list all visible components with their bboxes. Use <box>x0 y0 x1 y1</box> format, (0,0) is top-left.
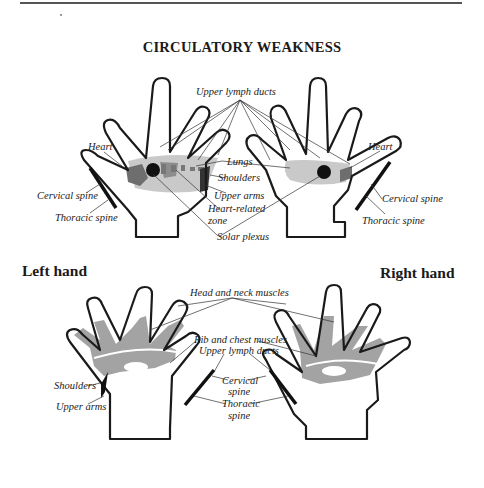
bottom-left-hand <box>67 287 214 439</box>
bottom-left-shoulder-bar <box>101 372 108 398</box>
top-left-band-2 <box>171 165 176 172</box>
label-thoracic-spine-right: Thoracic spine <box>362 215 425 226</box>
label-upper-lymph-ducts-top: Upper lymph ducts <box>196 86 276 97</box>
label-rib-chest-muscles: Rib and chest muscles <box>194 334 287 345</box>
label-right-hand: Right hand <box>380 264 455 282</box>
top-right-hand-outline <box>246 78 401 237</box>
label-upper-arms-top: Upper arms <box>214 190 264 201</box>
label-solar-plexus: Solar plexus <box>217 231 269 242</box>
label-cervical-spine-right: Cervical spine <box>382 193 443 204</box>
label-head-neck-muscles: Head and neck muscles <box>190 287 289 298</box>
top-left-band-4 <box>190 167 195 171</box>
label-thoracic-line1: Thoracic <box>222 398 260 409</box>
label-heart-related-zone-line2: zone <box>208 215 227 226</box>
label-lungs: Lungs <box>227 156 253 167</box>
label-heart-right: Heart <box>368 141 393 152</box>
bottom-left-palm-oval <box>124 362 148 372</box>
top-left-band-3 <box>181 165 185 171</box>
label-thoracic-line2: spine <box>228 410 250 421</box>
bottom-right-hand <box>263 285 410 439</box>
bottom-right-palm-oval <box>322 366 346 376</box>
top-left-solar-plexus <box>146 163 160 177</box>
top-right-hand <box>246 78 401 237</box>
label-shoulders-bottom: Shoulders <box>54 380 96 391</box>
label-cervical-spine-left: Cervical spine <box>37 190 98 201</box>
label-heart-related-zone-line1: Heart-related <box>208 203 265 214</box>
label-upper-lymph-ducts-bottom: Upper lymph ducts <box>199 345 279 356</box>
label-left-hand: Left hand <box>22 262 87 280</box>
label-shoulders-top: Shoulders <box>218 172 260 183</box>
top-left-band-1 <box>161 164 166 174</box>
label-upper-arms-bottom: Upper arms <box>56 401 106 412</box>
label-cervical-line1: Cervical <box>222 375 258 386</box>
label-thoracic-spine-left: Thoracic spine <box>55 212 118 223</box>
label-cervical-line2: spine <box>228 386 250 397</box>
label-heart-left: Heart <box>88 141 113 152</box>
